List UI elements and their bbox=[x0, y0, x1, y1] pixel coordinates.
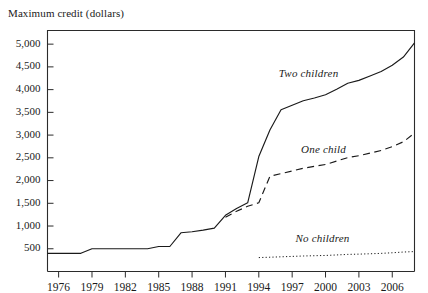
series-line-no-children bbox=[259, 252, 415, 258]
y-tick-label: 1,500 bbox=[16, 196, 41, 208]
series-line-two-children bbox=[48, 43, 415, 253]
series-label-one-child: One child bbox=[301, 143, 346, 155]
y-tick-label: 2,000 bbox=[16, 173, 41, 185]
x-tick-label: 2006 bbox=[362, 281, 422, 293]
series-label-no-children: No children bbox=[296, 232, 350, 244]
y-tick-label: 2,500 bbox=[16, 150, 41, 162]
y-tick-label: 3,000 bbox=[16, 128, 41, 140]
series-label-two-children: Two children bbox=[279, 67, 339, 79]
y-tick-label: 4,000 bbox=[16, 82, 41, 94]
y-tick-label: 1,000 bbox=[16, 219, 41, 231]
y-tick-label: 4,500 bbox=[16, 59, 41, 71]
y-tick-label: 500 bbox=[24, 241, 41, 253]
y-tick-label: 3,500 bbox=[16, 105, 41, 117]
y-tick-label: 5,000 bbox=[16, 37, 41, 49]
